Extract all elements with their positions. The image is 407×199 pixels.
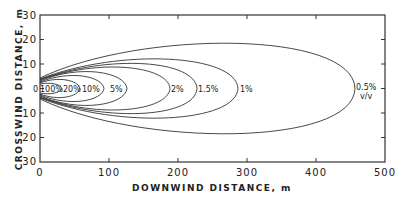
y-tick-20-top: 20 xyxy=(22,34,37,45)
y-tick-30-top: 30 xyxy=(22,10,37,21)
y-axis-title: CROSSWIND DISTANCE, m xyxy=(14,8,24,171)
y-tick-30-bottom: 30 xyxy=(22,156,37,167)
origin-label: 0 xyxy=(33,85,38,94)
x-tick-100: 100 xyxy=(98,167,120,178)
x-tick-400: 400 xyxy=(305,167,327,178)
y-tick-10-top: 10 xyxy=(22,59,37,70)
x-tick-300: 300 xyxy=(236,167,258,178)
x-tick-labels: 0 100 200 300 400 500 xyxy=(36,167,396,178)
label-5: 5% xyxy=(110,85,123,94)
x-axis-title: DOWNWIND DISTANCE, m xyxy=(132,183,292,193)
x-tick-500: 500 xyxy=(374,167,396,178)
label-1: 1% xyxy=(240,85,253,94)
label-0-5: 0.5% xyxy=(356,83,377,92)
x-tick-0: 0 xyxy=(36,167,43,178)
label-20: 20% xyxy=(63,85,81,94)
label-vv-unit: v/v xyxy=(360,92,372,101)
x-tick-200: 200 xyxy=(167,167,189,178)
label-2: 2% xyxy=(171,85,184,94)
label-100: 100% xyxy=(40,85,63,94)
contour-labels: 0 100% 20% 10% 5% 2% 1.5% 1% 0.5% v/v xyxy=(33,83,377,101)
y-tick-10-bottom: 10 xyxy=(22,108,37,119)
isopleth-chart: 0 100 200 300 400 500 30 20 10 10 20 30 … xyxy=(0,0,407,199)
y-tick-20-bottom: 20 xyxy=(22,132,37,143)
label-1-5: 1.5% xyxy=(198,85,219,94)
label-10: 10% xyxy=(82,85,100,94)
